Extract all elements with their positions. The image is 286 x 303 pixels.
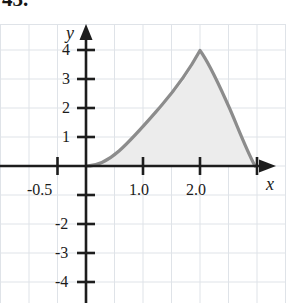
problem-number: 43. <box>2 0 28 10</box>
y-axis-label: y <box>66 25 74 42</box>
x-tick-label-2: 2.0 <box>186 181 206 198</box>
coordinate-plane-svg <box>0 24 286 303</box>
y-tick-label-neg4: -4 <box>55 273 68 290</box>
x-axis-arrow-icon <box>259 160 276 173</box>
x-tick-label-neg05: -0.5 <box>27 181 52 198</box>
figure-container: 43. <box>0 0 286 303</box>
y-tick-label-4: 4 <box>62 41 70 58</box>
y-axis-arrow-icon <box>80 24 93 40</box>
x-axis-label: x <box>266 176 274 193</box>
y-tick-label-2: 2 <box>62 99 70 116</box>
x-tick-label-1: 1.0 <box>129 181 149 198</box>
y-tick-label-1: 1 <box>62 128 70 145</box>
y-tick-label-neg2: -2 <box>55 215 68 232</box>
axis-lines <box>0 34 262 303</box>
y-tick-label-3: 3 <box>62 70 70 87</box>
graph-plot-area <box>0 24 286 303</box>
y-tick-label-neg3: -3 <box>55 244 68 261</box>
